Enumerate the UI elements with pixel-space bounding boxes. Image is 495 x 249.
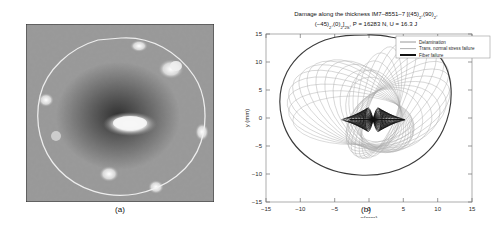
caption-panel-b: (b): [240, 205, 492, 214]
panel-a-cscan-image: [26, 24, 214, 202]
figure-root: (a) Damage along the thickness IM7–8551–…: [0, 0, 495, 249]
cscan-bright-spot-sw: [51, 131, 61, 141]
legend-label-delamination: Delamination: [419, 40, 446, 45]
cscan-bright-spot-se: [148, 180, 164, 194]
cscan-bright-spot-ne-core: [170, 61, 182, 71]
damage-plot-svg: Damage along the thickness IM7–8551–7 [(…: [240, 4, 492, 218]
caption-panel-a: (a): [26, 205, 214, 214]
cscan-central-blob-core: [113, 116, 147, 130]
title-l1-mid: ,(90): [421, 11, 433, 17]
panel-b-plot: Damage along the thickness IM7–8551–7 [(…: [240, 4, 492, 218]
cscan-bright-spot-n: [130, 40, 148, 52]
plot-legend: Delamination Trans. normal stress failur…: [396, 36, 490, 58]
cscan-svg: [26, 24, 214, 202]
title-l2-mid: ,(0): [331, 21, 340, 27]
cscan-bright-spot-s: [99, 166, 119, 182]
x-axis-label: x(mm): [361, 215, 378, 218]
y-axis-label: y (mm): [244, 109, 250, 128]
title-l2-post: , P = 16283 N, U = 16.3 J: [350, 21, 418, 27]
y-tick-minus5: −5: [255, 143, 263, 149]
y-tick-15: 15: [255, 31, 262, 37]
title-l1-main: Damage along the thickness IM7–8551–7 [(…: [294, 11, 419, 17]
y-tick-minus10: −10: [252, 171, 263, 177]
legend-label-trans-normal-stress-failure: Trans. normal stress failure: [419, 46, 475, 51]
y-tick-10: 10: [255, 59, 262, 65]
legend-label-fiber-failure: Fiber failure: [419, 53, 444, 58]
title-l2-pre: (−45): [315, 21, 329, 27]
